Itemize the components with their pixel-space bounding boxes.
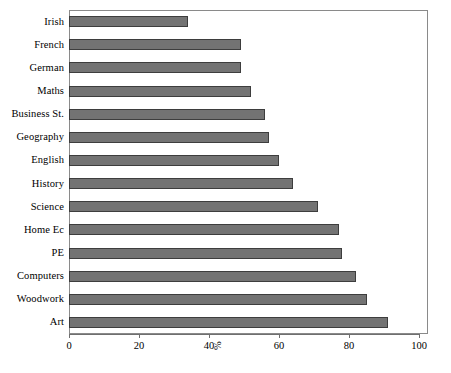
bar (69, 271, 356, 282)
bar (69, 86, 251, 97)
y-axis-label: Home Ec (0, 224, 64, 235)
y-axis-label: Irish (0, 16, 64, 27)
bar (69, 109, 265, 120)
x-axis-tick (139, 334, 140, 338)
bar (69, 132, 269, 143)
y-axis-label: Maths (0, 85, 64, 96)
x-axis-tick-label: 100 (399, 340, 439, 352)
plot-area (69, 10, 428, 334)
bar (69, 62, 241, 73)
bar (69, 294, 367, 305)
y-axis-label: Business St. (0, 108, 64, 119)
y-axis-label: Computers (0, 270, 64, 281)
x-axis-tick-label: 20 (119, 340, 159, 352)
bar (69, 248, 342, 259)
bar (69, 39, 241, 50)
bar (69, 224, 339, 235)
y-axis-label: Art (0, 316, 64, 327)
y-axis-label: PE (0, 247, 64, 258)
y-axis-category-labels: IrishFrenchGermanMathsBusiness St.Geogra… (0, 10, 64, 334)
x-axis-tick (349, 334, 350, 338)
y-axis-label: French (0, 39, 64, 50)
x-axis-tick-label: 60 (259, 340, 299, 352)
bar (69, 201, 318, 212)
x-axis-tick-label: 80 (329, 340, 369, 352)
y-axis-label: Geography (0, 131, 64, 142)
bar (69, 178, 293, 189)
x-axis-line (69, 334, 420, 335)
bar (69, 155, 279, 166)
x-axis-title: % (212, 341, 223, 350)
y-axis-label: German (0, 62, 64, 73)
bar-chart: IrishFrenchGermanMathsBusiness St.Geogra… (0, 0, 451, 373)
bar (69, 317, 388, 328)
x-axis-tick-label: 0 (49, 340, 89, 352)
y-axis-label: Woodwork (0, 293, 64, 304)
x-axis-tick-label: 40 (189, 340, 229, 352)
y-axis-label: English (0, 154, 64, 165)
y-axis-label: History (0, 178, 64, 189)
x-axis-tick (69, 334, 70, 338)
bar (69, 16, 188, 27)
x-axis-tick (279, 334, 280, 338)
y-axis-label: Science (0, 201, 64, 212)
x-axis-tick (209, 334, 210, 338)
x-axis-tick (419, 334, 420, 338)
